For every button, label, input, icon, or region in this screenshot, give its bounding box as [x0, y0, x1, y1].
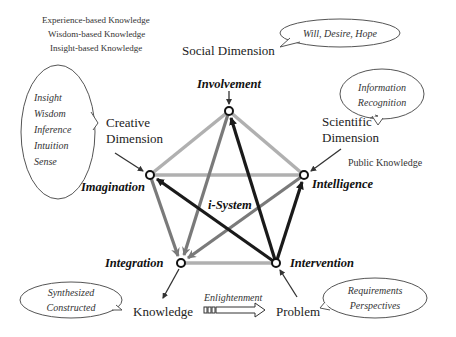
involvement-label: Involvement [197, 77, 261, 92]
intervention-label: Intervention [290, 256, 354, 271]
creative-dimension-label-2: Dimension [106, 131, 163, 147]
bubble-knowledge-line: Synthesized [30, 285, 112, 300]
node-involvement [225, 107, 233, 115]
bubble-scientific-text: Information Recognition [340, 80, 424, 110]
intelligence-label: Intelligence [312, 177, 373, 192]
knowledge-label: Knowledge [133, 304, 193, 320]
bubble-problem-text: Requirements Perspectives [332, 283, 418, 313]
knowledge-type-insight: Insight-based Knowledge [50, 42, 142, 55]
integration-label: Integration [105, 256, 163, 271]
knowledge-type-experience: Experience-based Knowledge [42, 14, 150, 27]
bubble-creative-line: Wisdom [34, 106, 71, 122]
bubble-problem-line: Perspectives [332, 298, 418, 313]
scientific-dimension-label-1: Scientific [322, 114, 372, 130]
scientific-dimension-label-2: Dimension [322, 130, 379, 146]
bubble-creative-line: Intuition [34, 138, 71, 154]
bubble-social-text: Will, Desire, Hope [300, 26, 380, 41]
enlightenment-label: Enlightenment [204, 290, 262, 305]
node-intervention [272, 259, 280, 267]
bubble-creative-text: Insight Wisdom Inference Intuition Sense [34, 90, 71, 170]
medium-edges [150, 111, 304, 258]
knowledge-type-wisdom: Wisdom-based Knowledge [48, 28, 145, 41]
public-knowledge-label: Public Knowledge [348, 156, 422, 169]
bubble-scientific-line: Recognition [340, 95, 424, 110]
node-imagination [146, 171, 154, 179]
i-system-label: i-System [208, 198, 252, 213]
creative-dimension-label-1: Creative [106, 115, 150, 131]
node-integration [177, 259, 185, 267]
imagination-label: Imagination [81, 180, 145, 195]
bubble-knowledge-line: Constructed [30, 300, 112, 315]
bubble-creative-line: Insight [34, 90, 71, 106]
node-intelligence [300, 171, 308, 179]
bubble-creative-line: Sense [34, 154, 71, 170]
bubble-knowledge-text: Synthesized Constructed [30, 285, 112, 315]
bubble-scientific-line: Information [340, 80, 424, 95]
social-dimension-label: Social Dimension [182, 43, 275, 59]
bubble-creative-line: Inference [34, 122, 71, 138]
enlightenment-arrow [204, 303, 265, 317]
bubble-problem-line: Requirements [332, 283, 418, 298]
problem-label: Problem [276, 304, 320, 320]
